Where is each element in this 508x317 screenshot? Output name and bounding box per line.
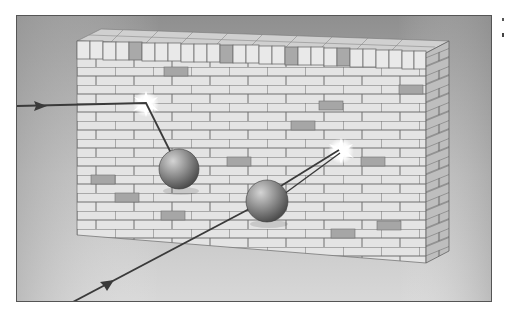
cropped-label-fragment <box>496 8 508 38</box>
diagram-frame <box>16 15 492 302</box>
wall-front-face <box>77 41 426 263</box>
wall-scene <box>17 16 492 302</box>
impact-flash-2 <box>328 138 354 164</box>
